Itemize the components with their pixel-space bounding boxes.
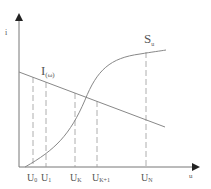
diagram-canvas: i u I(ω) Su U0 U1 UK UK+1 UN xyxy=(0,0,211,189)
line-label: I(ω) xyxy=(41,63,55,79)
line-i-omega xyxy=(19,72,165,127)
iu-characteristic-diagram: i u I(ω) Su U0 U1 UK UK+1 UN xyxy=(0,0,211,189)
x-axis-label: u xyxy=(189,172,193,180)
y-axis-label: i xyxy=(5,28,8,37)
tick-uk1: UK+1 xyxy=(92,172,110,183)
tick-uk: UK xyxy=(70,172,82,183)
tick-labels: U0 U1 UK UK+1 UN xyxy=(27,172,153,183)
tick-u0: U0 xyxy=(27,172,37,183)
tick-un: UN xyxy=(141,172,153,183)
tick-u1: U1 xyxy=(41,172,51,183)
curve-label: Su xyxy=(144,31,154,47)
